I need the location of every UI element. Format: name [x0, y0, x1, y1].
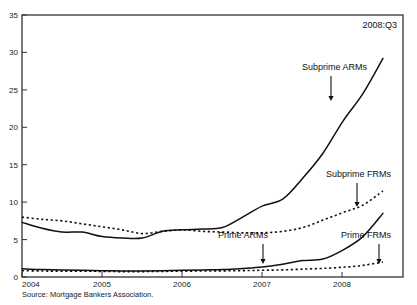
- y-tick-label-30: 30: [9, 48, 18, 57]
- x-axis: 2004 2005 2006 2007 2008: [22, 272, 351, 289]
- chart-svg: 35 30 25 20 15 10 5 0 2004 2005 2006 200…: [0, 0, 417, 305]
- x-tick-label-2007: 2007: [253, 280, 271, 289]
- y-tick-label-35: 35: [9, 11, 18, 20]
- y-tick-label-0: 0: [14, 273, 19, 282]
- annotation-label-prime-frms: Prime FRMs: [341, 230, 391, 240]
- source-note: Source: Mortgage Bankers Association.: [22, 290, 153, 299]
- y-axis: 35 30 25 20 15 10 5 0: [9, 11, 27, 282]
- annotation-layer: Subprime ARMsSubprime FRMsPrime ARMsPrim…: [218, 62, 392, 264]
- y-tick-label-5: 5: [14, 236, 19, 245]
- y-tick-label-15: 15: [9, 161, 18, 170]
- corner-date-label: 2008:Q3: [362, 20, 397, 30]
- y-tick-label-25: 25: [9, 86, 18, 95]
- series-line-subprime-frms: [22, 191, 383, 234]
- annotation-label-subprime-arms: Subprime ARMs: [302, 62, 368, 72]
- annotation-arrowhead-prime-arms: [260, 259, 265, 264]
- annotation-arrowhead-subprime-arms: [328, 96, 333, 101]
- series-layer: [22, 58, 383, 271]
- x-tick-label-2004: 2004: [22, 280, 40, 289]
- x-tick-label-2008: 2008: [333, 280, 351, 289]
- y-tick-label-20: 20: [9, 123, 18, 132]
- annotation-label-subprime-frms: Subprime FRMs: [326, 169, 392, 179]
- annotation-label-prime-arms: Prime ARMs: [218, 230, 269, 240]
- chart-figure: 35 30 25 20 15 10 5 0 2004 2005 2006 200…: [0, 0, 417, 305]
- x-tick-label-2006: 2006: [173, 280, 191, 289]
- x-tick-label-2005: 2005: [93, 280, 111, 289]
- y-tick-label-10: 10: [9, 198, 18, 207]
- series-line-prime-arms: [22, 213, 383, 271]
- series-line-subprime-arms: [22, 58, 383, 238]
